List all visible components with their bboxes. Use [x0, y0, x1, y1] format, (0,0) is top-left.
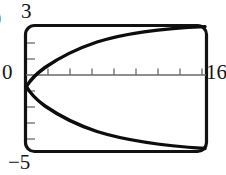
x-min-label: 0: [2, 62, 13, 83]
y-max-label: 3: [21, 1, 32, 22]
y-min-label: −5: [8, 152, 30, 173]
figure-container: ) 3 −5 0 16: [0, 0, 226, 175]
x-max-label: 16: [206, 62, 226, 83]
plot-frame: [26, 26, 207, 152]
figure-marker: ): [0, 6, 1, 27]
plot-canvas: [0, 0, 226, 175]
